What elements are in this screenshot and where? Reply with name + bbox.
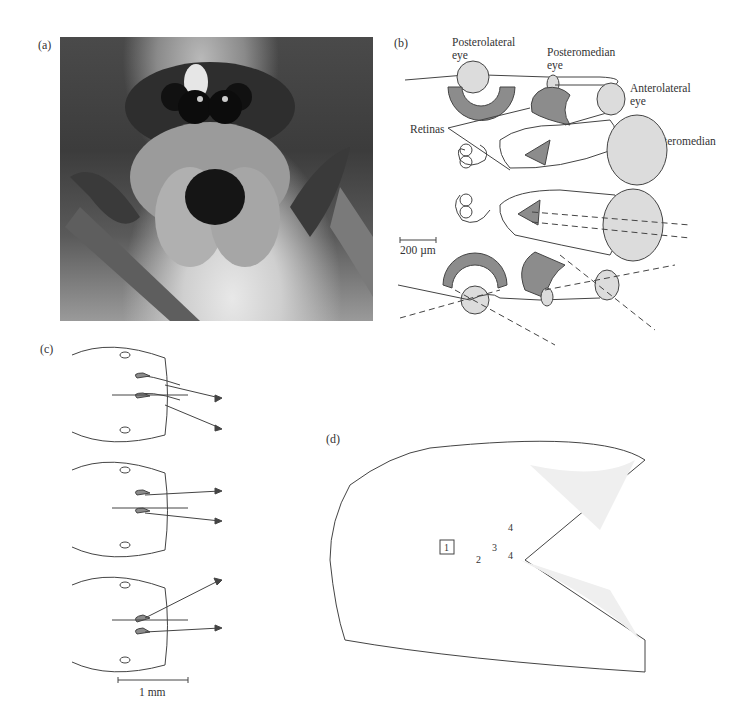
panel-c-diagrams <box>72 347 222 683</box>
scale-bar-label-1mm: 1 mm <box>139 686 166 699</box>
panel-c-label: (c) <box>40 343 53 356</box>
region-number-4b: 4 <box>508 549 513 562</box>
region-number-1: 1 <box>444 541 449 554</box>
panel-d-label: (d) <box>326 433 340 446</box>
region-number-2: 2 <box>476 553 481 566</box>
panel-d-diagram <box>330 441 645 672</box>
region-number-4a: 4 <box>508 521 513 534</box>
region-number-3: 3 <box>492 541 497 554</box>
eye-anatomy-diagram <box>0 0 754 728</box>
